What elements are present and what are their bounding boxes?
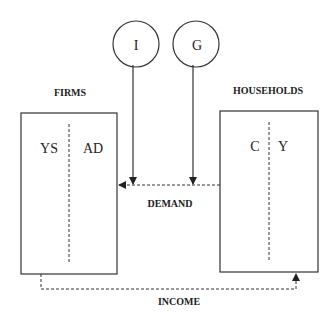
households-title: HOUSEHOLDS (233, 85, 303, 96)
income-flow-arrow (41, 274, 296, 289)
investment-node: I (113, 21, 159, 67)
households-c-label: C (250, 139, 259, 154)
households-y-label: Y (278, 139, 288, 154)
circular-flow-diagram: I G FIRMS YS AD HOUSEHOLDS C Y DEMAND IN… (0, 0, 334, 320)
government-node: G (173, 21, 219, 67)
investment-label: I (134, 38, 139, 53)
income-label: INCOME (158, 296, 201, 307)
demand-label: DEMAND (148, 198, 193, 209)
government-label: G (192, 38, 202, 53)
firms-ad-label: AD (83, 141, 103, 156)
firms-ys-label: YS (40, 141, 58, 156)
firms-title: FIRMS (54, 87, 87, 98)
